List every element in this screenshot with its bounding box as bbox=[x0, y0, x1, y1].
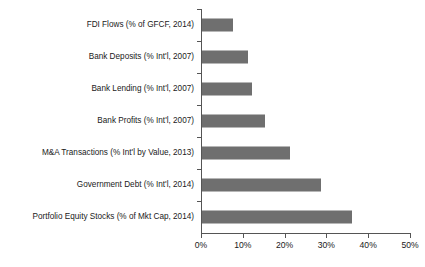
x-axis-tick-label: 50% bbox=[401, 240, 418, 250]
x-axis-tick bbox=[285, 233, 286, 238]
category-label: Bank Deposits (% Int'l, 2007) bbox=[89, 52, 194, 61]
y-axis-tick bbox=[197, 41, 201, 42]
y-axis-tick bbox=[197, 73, 201, 74]
x-axis-tick-label: 30% bbox=[318, 240, 335, 250]
bar-row: Portfolio Equity Stocks (% of Mkt Cap, 2… bbox=[201, 201, 410, 233]
bar-bank-profits bbox=[202, 115, 265, 128]
bar-ma-transactions bbox=[202, 147, 290, 160]
bar-portfolio-equity-stocks bbox=[202, 211, 352, 224]
y-axis-tick bbox=[197, 137, 201, 138]
bar-row: Bank Profits (% Int'l, 2007) bbox=[201, 105, 410, 137]
bar-row: Bank Deposits (% Int'l, 2007) bbox=[201, 41, 410, 73]
category-label: FDI Flows (% of GFCF, 2014) bbox=[87, 20, 194, 29]
category-label: Bank Lending (% Int'l, 2007) bbox=[91, 84, 194, 93]
x-axis-tick bbox=[243, 233, 244, 238]
bar-row: M&A Transactions (% Int'l by Value, 2013… bbox=[201, 137, 410, 169]
bar-row: FDI Flows (% of GFCF, 2014) bbox=[201, 9, 410, 41]
bar-government-debt bbox=[202, 179, 321, 192]
y-axis-tick bbox=[197, 201, 201, 202]
bar-bank-deposits bbox=[202, 51, 248, 64]
x-axis-tick bbox=[410, 233, 411, 238]
category-label: Portfolio Equity Stocks (% of Mkt Cap, 2… bbox=[32, 212, 194, 221]
bar-bank-lending bbox=[202, 83, 252, 96]
category-label: Bank Profits (% Int'l, 2007) bbox=[97, 116, 194, 125]
category-label: Government Debt (% Int'l, 2014) bbox=[77, 180, 194, 189]
plot-area: FDI Flows (% of GFCF, 2014) Bank Deposit… bbox=[201, 9, 410, 233]
bar-chart: FDI Flows (% of GFCF, 2014) Bank Deposit… bbox=[0, 0, 425, 267]
x-axis-tick bbox=[201, 233, 202, 238]
x-axis-tick bbox=[326, 233, 327, 238]
x-axis-tick-label: 20% bbox=[276, 240, 293, 250]
x-axis-tick-label: 40% bbox=[360, 240, 377, 250]
bar-fdi-flows bbox=[202, 19, 233, 32]
category-label: M&A Transactions (% Int'l by Value, 2013… bbox=[42, 148, 194, 157]
y-axis-tick bbox=[197, 169, 201, 170]
x-axis-tick bbox=[368, 233, 369, 238]
x-axis-tick-label: 10% bbox=[234, 240, 251, 250]
bar-row: Government Debt (% Int'l, 2014) bbox=[201, 169, 410, 201]
x-axis-tick-label: 0% bbox=[195, 240, 207, 250]
y-axis-tick bbox=[197, 9, 201, 10]
x-axis-line bbox=[201, 233, 410, 234]
bar-row: Bank Lending (% Int'l, 2007) bbox=[201, 73, 410, 105]
y-axis-tick bbox=[197, 105, 201, 106]
